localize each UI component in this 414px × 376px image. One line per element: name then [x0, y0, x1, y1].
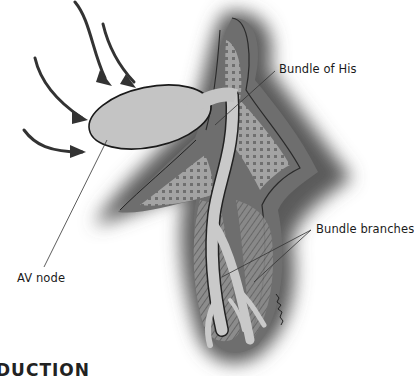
- section-heading-fragment: DUCTION: [0, 360, 90, 376]
- label-bundle-of-his: Bundle of His: [279, 62, 357, 76]
- leader-av-node: [44, 140, 107, 267]
- label-bundle-branches: Bundle branches: [316, 222, 414, 236]
- label-av-node: AV node: [17, 271, 65, 285]
